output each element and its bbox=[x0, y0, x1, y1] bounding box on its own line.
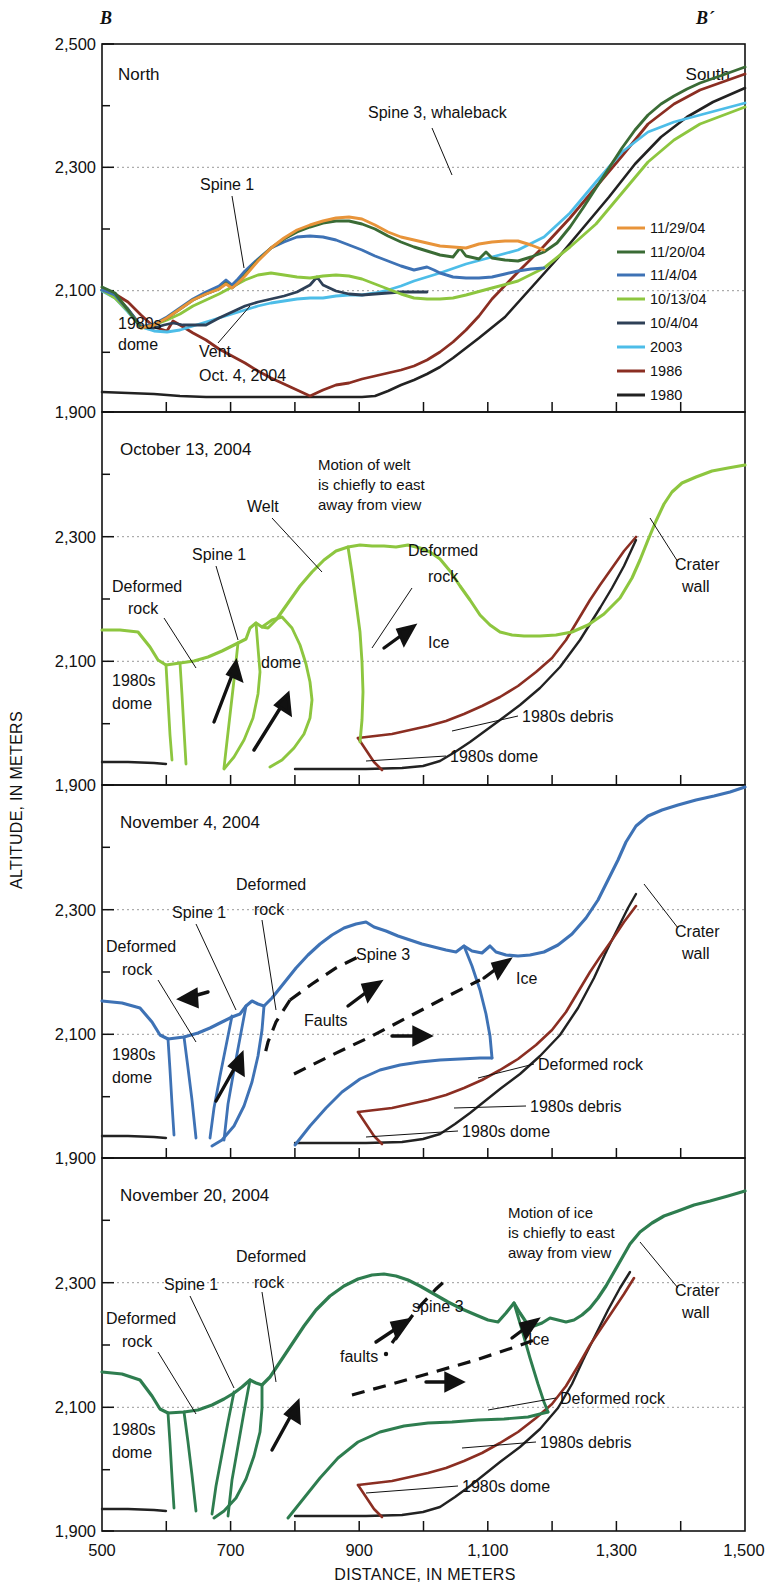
panel3-ytick-2300: 2,300 bbox=[55, 901, 96, 919]
panel4-deformed-left-l2: rock bbox=[122, 1333, 153, 1350]
panel2-ytick-2300: 2,300 bbox=[55, 528, 96, 546]
panel4-crater-wall-l2: wall bbox=[681, 1304, 710, 1321]
panel2-spine3-label: dome bbox=[261, 654, 301, 671]
panel2-ytick-2100: 2,100 bbox=[55, 652, 96, 670]
panel2-motion-l3: away from view bbox=[318, 496, 422, 513]
legend-label-10-4-04: 10/4/04 bbox=[650, 315, 698, 331]
figure-svg: B B´ ALTITUDE, IN METERS DISTANCE, IN ME… bbox=[0, 0, 766, 1590]
panel2-profile-main bbox=[102, 465, 745, 665]
panel2-deformed-mid-l1: Deformed bbox=[408, 542, 478, 559]
panel2-x-ticks bbox=[166, 775, 680, 785]
panel4-1986-inner bbox=[358, 1485, 382, 1517]
panel4-1980s-dome-l1: 1980s bbox=[112, 1421, 156, 1438]
panel1-ytick-2300: 2,300 bbox=[55, 158, 96, 176]
panel3-ice-label: Ice bbox=[516, 970, 537, 987]
panel4-spine1-label: Spine 1 bbox=[164, 1276, 218, 1293]
panel3-fault-upper bbox=[264, 1000, 290, 1058]
panel2-leader-dome bbox=[366, 756, 446, 761]
panel3-spine3-label: Spine 3 bbox=[356, 946, 410, 963]
legend-label-2003: 2003 bbox=[650, 339, 682, 355]
legend-label-10-13-04: 10/13/04 bbox=[650, 291, 706, 307]
panel-october-13: 2,300 2,100 1,900 October 13, 2004 bbox=[55, 412, 745, 794]
legend: 11/29/04 11/20/04 11/4/04 10/13/04 10/4/… bbox=[617, 220, 706, 403]
legend-item-7[interactable]: 1980 bbox=[617, 387, 682, 403]
xtick-1300: 1,300 bbox=[596, 1541, 637, 1559]
panel2-welt-right-flank bbox=[348, 547, 363, 742]
panel3-deformed-top-l2: rock bbox=[254, 901, 285, 918]
panel3-leader-deformed-left bbox=[158, 980, 196, 1042]
panel2-leader-spine1 bbox=[216, 566, 238, 640]
panel3-leader-crater-wall bbox=[644, 884, 678, 928]
panel-november-4: 2,300 2,100 1,900 November 4, 2004 bbox=[55, 785, 745, 1167]
panel2-1986-inner bbox=[358, 738, 382, 770]
panel4-spine1-a bbox=[168, 1413, 174, 1508]
panel2-dome-label: 1980s dome bbox=[450, 748, 538, 765]
legend-label-1986: 1986 bbox=[650, 363, 682, 379]
panel4-spine1-b bbox=[184, 1412, 196, 1511]
panel4-deformed-top-l2: rock bbox=[254, 1274, 285, 1291]
annotation-vent-l2: Oct. 4, 2004 bbox=[199, 367, 286, 384]
legend-item-4[interactable]: 10/4/04 bbox=[617, 315, 698, 331]
legend-label-11-20-04: 11/20/04 bbox=[650, 244, 705, 260]
panel4-ytick-1900: 1,900 bbox=[55, 1522, 96, 1540]
panel4-debris-label: 1980s debris bbox=[540, 1434, 632, 1451]
panel2-1980-dome-right bbox=[295, 608, 600, 769]
leader-spine-3-whaleback bbox=[432, 128, 452, 175]
panel3-1980s-dome-l1: 1980s bbox=[112, 1046, 156, 1063]
panel3-ytick-1900: 1,900 bbox=[55, 1149, 96, 1167]
panel4-leader-deformed-top bbox=[262, 1292, 276, 1382]
annotation-vent-l1: Vent bbox=[199, 343, 232, 360]
panel3-crater-wall-l2: wall bbox=[681, 945, 710, 962]
annotation-1980s-dome-l2: dome bbox=[118, 336, 158, 353]
panel4-ytick-2100: 2,100 bbox=[55, 1398, 96, 1416]
legend-item-1[interactable]: 11/20/04 bbox=[617, 244, 705, 260]
panel2-1980s-dome-l1: 1980s bbox=[112, 672, 156, 689]
panel2-motion-l2: is chiefly to east bbox=[318, 476, 426, 493]
panel2-1980-upper bbox=[600, 540, 636, 608]
x-axis-title: DISTANCE, IN METERS bbox=[334, 1566, 515, 1583]
panel2-spine3-top bbox=[262, 617, 312, 767]
panel3-dome-label: 1980s dome bbox=[462, 1123, 550, 1140]
panel3-title: November 4, 2004 bbox=[120, 813, 260, 832]
panel1-y-ticks bbox=[102, 44, 114, 412]
panel4-dome-label: 1980s dome bbox=[462, 1478, 550, 1495]
panel4-leader-dome bbox=[366, 1486, 458, 1493]
panel3-crater-wall-l1: Crater bbox=[675, 923, 720, 940]
panel3-1986-inner bbox=[358, 1112, 382, 1144]
panel4-x-ticks bbox=[166, 1521, 680, 1531]
panel2-debris-label: 1980s debris bbox=[522, 708, 614, 725]
legend-item-3[interactable]: 10/13/04 bbox=[617, 291, 706, 307]
panel1-ytick-1900: 1,900 bbox=[55, 403, 96, 421]
panel4-right-flank bbox=[514, 1303, 548, 1412]
panel2-leader-debris bbox=[452, 716, 518, 731]
panel4-title: November 20, 2004 bbox=[120, 1186, 269, 1205]
panel3-x-ticks bbox=[166, 1148, 680, 1158]
panel2-spine1-label: Spine 1 bbox=[192, 546, 246, 563]
panel2-1980s-dome-l2: dome bbox=[112, 695, 152, 712]
panel3-1980-dome-left bbox=[102, 1136, 166, 1138]
curve-11-4-04 bbox=[102, 236, 544, 327]
xtick-900: 900 bbox=[345, 1541, 373, 1559]
panel1-ytick-2100: 2,100 bbox=[55, 281, 96, 299]
panel2-motion-arrows bbox=[214, 626, 414, 750]
panel2-deformed-left-l1: Deformed bbox=[112, 578, 182, 595]
panel3-deformed-right: Deformed rock bbox=[538, 1056, 644, 1073]
panel4-arrows bbox=[272, 1320, 537, 1450]
legend-label-11-4-04: 11/4/04 bbox=[650, 267, 697, 283]
panel2-title: October 13, 2004 bbox=[120, 440, 251, 459]
panel4-base-arc bbox=[288, 1412, 548, 1518]
panel2-1980-dome-left bbox=[102, 762, 166, 764]
panel3-debris-label: 1980s debris bbox=[530, 1098, 622, 1115]
xtick-700: 700 bbox=[217, 1541, 245, 1559]
panel4-deformed-top-l1: Deformed bbox=[236, 1248, 306, 1265]
panel4-motion-l2: is chiefly to east bbox=[508, 1224, 616, 1241]
legend-item-6[interactable]: 1986 bbox=[617, 363, 682, 379]
legend-item-2[interactable]: 11/4/04 bbox=[617, 267, 697, 283]
leader-spine-1 bbox=[232, 196, 244, 268]
panel2-leader-deformed-left bbox=[164, 618, 196, 668]
panel2-spine1-line-a bbox=[166, 665, 172, 760]
legend-item-0[interactable]: 11/29/04 bbox=[617, 220, 705, 236]
panel2-crater-wall-l1: Crater bbox=[675, 556, 720, 573]
panel3-ytick-2100: 2,100 bbox=[55, 1025, 96, 1043]
legend-item-5[interactable]: 2003 bbox=[617, 339, 682, 355]
